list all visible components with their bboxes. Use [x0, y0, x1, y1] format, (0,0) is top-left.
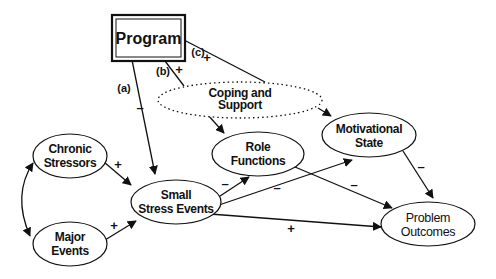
edge-chronic-major — [22, 163, 33, 236]
edge-coping-motivational — [318, 108, 331, 116]
program-label: Program — [116, 30, 182, 47]
node-chronic-stressors: Chronic Stressors — [33, 134, 107, 178]
node-motivational-state: Motivational State — [322, 113, 416, 157]
role-label-line1: Role — [246, 140, 271, 154]
sign-program-coping: + — [175, 62, 183, 77]
sign-program-small: – — [136, 100, 143, 115]
node-role-functions: Role Functions — [212, 132, 304, 176]
sign-small-problem: + — [287, 221, 295, 236]
path-label-b: (b) — [156, 65, 170, 77]
node-problem-outcomes: Problem Outcomes — [381, 202, 475, 246]
major-label-line1: Major — [55, 230, 86, 244]
edge-coping-role — [208, 115, 224, 133]
path-label-a: (a) — [117, 82, 131, 94]
coping-label-line2: Support — [218, 98, 262, 112]
problem-label-line1: Problem — [406, 211, 450, 225]
sign-small-motivational: – — [273, 180, 280, 195]
node-coping-support: Coping and Support — [158, 82, 322, 118]
problem-label-line2: Outcomes — [401, 225, 456, 239]
role-label-line2: Functions — [231, 154, 286, 168]
node-program: Program — [112, 15, 185, 61]
sign-program-motivational: + — [203, 50, 211, 65]
edge-role-problem — [295, 167, 392, 208]
small-label-line2: Stress Events — [138, 202, 214, 216]
motivational-label-line1: Motivational — [336, 122, 402, 136]
edge-program-small — [132, 60, 155, 174]
chronic-label-line1: Chronic — [48, 142, 92, 156]
node-small-stress-events: Small Stress Events — [131, 180, 221, 224]
stress-process-diagram: Program Coping and Support Chronic Stres… — [0, 0, 496, 279]
motivational-label-line2: State — [355, 136, 383, 150]
sign-role-problem: – — [350, 177, 357, 192]
small-label-line1: Small — [161, 188, 192, 202]
sign-small-role: – — [221, 176, 228, 191]
edge-small-problem — [210, 214, 381, 227]
sign-major-small: + — [110, 218, 118, 233]
chronic-label-line2: Stressors — [44, 156, 97, 170]
sign-chronic-small: + — [114, 157, 122, 172]
major-label-line2: Events — [51, 244, 89, 258]
node-major-events: Major Events — [33, 222, 107, 266]
sign-motivational-problem: – — [417, 159, 424, 174]
